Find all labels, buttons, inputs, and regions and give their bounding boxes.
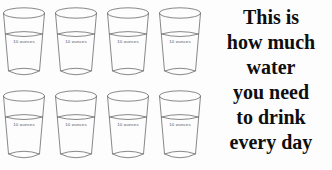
water-glass: 10 ounces — [0, 89, 48, 164]
water-glass: 10 ounces — [156, 6, 204, 81]
caption-line: every day — [212, 130, 330, 155]
water-glass: 10 ounces — [104, 6, 152, 81]
water-glass: 10 ounces — [52, 89, 100, 164]
glass-row: 10 ounces 10 ounces — [0, 6, 210, 84]
glass-capacity-label: 10 ounces — [104, 39, 152, 45]
caption-block: This is how much water you need to drink… — [212, 5, 330, 165]
glass-capacity-label: 10 ounces — [156, 39, 204, 45]
water-glass: 10 ounces — [52, 6, 100, 81]
water-glass: 10 ounces — [104, 89, 152, 164]
glass-capacity-label: 10 ounces — [0, 39, 48, 45]
glass-capacity-label: 10 ounces — [104, 122, 152, 128]
caption-line: how much — [212, 30, 330, 55]
caption-line: to drink — [212, 105, 330, 130]
caption-line: you need — [212, 80, 330, 105]
water-glass: 10 ounces — [0, 6, 48, 81]
water-glass: 10 ounces — [156, 89, 204, 164]
glass-capacity-label: 10 ounces — [0, 122, 48, 128]
glass-capacity-label: 10 ounces — [156, 122, 204, 128]
caption-line: water — [212, 55, 330, 80]
glass-capacity-label: 10 ounces — [52, 39, 100, 45]
caption-line: This is — [212, 5, 330, 30]
glasses-grid: 10 ounces 10 ounces — [0, 0, 210, 170]
water-intake-infographic: 10 ounces 10 ounces — [0, 0, 332, 170]
glass-capacity-label: 10 ounces — [52, 122, 100, 128]
glass-row: 10 ounces 10 ounces — [0, 89, 210, 167]
